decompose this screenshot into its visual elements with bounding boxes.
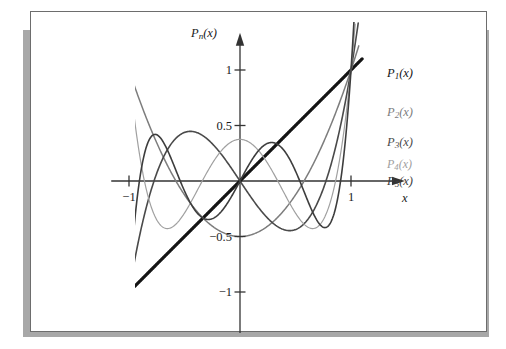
curve-label-p4: P4(x)	[387, 158, 412, 172]
axes-group	[111, 33, 405, 333]
plot-canvas	[31, 12, 488, 333]
curve-label-p1: P1(x)	[387, 67, 413, 81]
x-tick-label: −1	[117, 191, 141, 204]
curve-label-p3: P3(x)	[387, 136, 413, 150]
y-axis-label: Pn(x)	[191, 27, 217, 41]
figure-frame: Pn(x) x 10.5−0.5−1−11 P1(x)P2(x)P3(x)P4(…	[30, 11, 487, 332]
y-tick-label: 0.5	[198, 120, 232, 133]
y-tick-label: −1	[198, 286, 232, 299]
curve-P2(x)	[123, 46, 358, 237]
curve-label-p5: P5(x)	[387, 175, 413, 189]
y-tick-label: 1	[198, 64, 232, 77]
legendre-polynomial-plot: Pn(x) x 10.5−0.5−1−11 P1(x)P2(x)P3(x)P4(…	[31, 12, 488, 333]
x-tick-label: 1	[339, 191, 363, 204]
x-axis-label-text: x	[402, 192, 408, 205]
y-tick-label: −0.5	[198, 231, 232, 244]
y-axis-label-text: Pn(x)	[191, 26, 217, 40]
curve-label-p2: P2(x)	[387, 106, 413, 120]
